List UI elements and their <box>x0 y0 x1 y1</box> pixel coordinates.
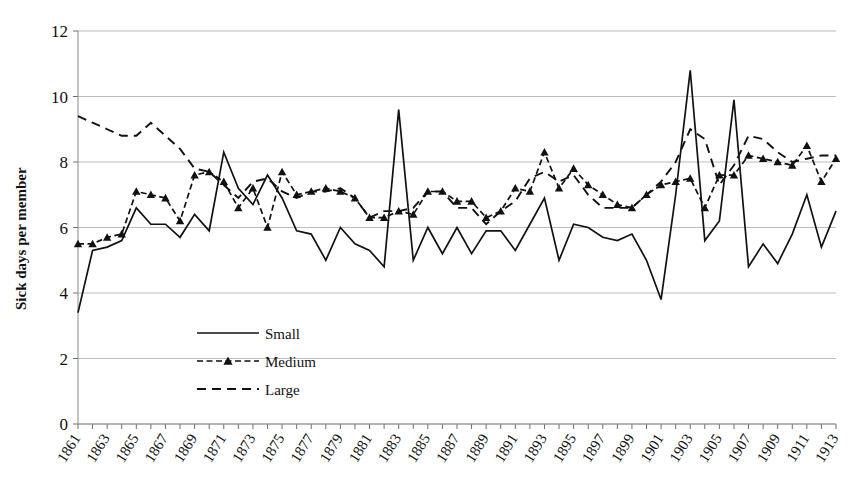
x-tick-label-1913: 1913 <box>812 431 841 465</box>
x-tick-label-1871: 1871 <box>200 431 229 465</box>
marker-triangle <box>190 171 198 179</box>
marker-triangle <box>147 191 155 199</box>
marker-triangle <box>817 177 825 185</box>
y-tick-label-8: 8 <box>60 153 69 172</box>
x-tick-group: 1861186318651867186918711873187518771879… <box>54 424 841 465</box>
marker-triangle <box>278 168 286 176</box>
x-tick-label-1895: 1895 <box>550 431 579 465</box>
y-tick-label-4: 4 <box>60 284 69 303</box>
x-tick-label-1893: 1893 <box>521 431 550 465</box>
legend-label-small: Small <box>265 326 300 342</box>
x-tick-label-1883: 1883 <box>375 431 404 465</box>
x-tick-label-1861: 1861 <box>54 431 83 465</box>
marker-triangle <box>569 164 577 172</box>
x-tick-label-1911: 1911 <box>783 431 812 464</box>
partial-caption <box>0 0 863 12</box>
y-axis-label: Sick days per member <box>13 167 29 310</box>
x-tick-label-1903: 1903 <box>666 431 695 465</box>
marker-triangle <box>599 191 607 199</box>
marker-triangle <box>803 141 811 149</box>
legend-label-medium: Medium <box>265 354 316 370</box>
x-tick-label-1909: 1909 <box>754 431 783 465</box>
chart-figure: 024681012 186118631865186718691871187318… <box>0 0 863 491</box>
x-tick-label-1869: 1869 <box>171 431 200 465</box>
x-tick-label-1889: 1889 <box>462 431 491 465</box>
y-tick-label-2: 2 <box>60 350 69 369</box>
marker-triangle <box>511 184 519 192</box>
x-tick-label-1887: 1887 <box>433 431 463 465</box>
x-tick-label-1891: 1891 <box>491 431 520 465</box>
marker-triangle <box>686 174 694 182</box>
y-tick-label-0: 0 <box>60 415 69 434</box>
x-tick-label-1873: 1873 <box>229 431 258 465</box>
x-tick-label-1901: 1901 <box>637 431 666 465</box>
marker-triangle <box>613 200 621 208</box>
y-tick-label-6: 6 <box>60 219 69 238</box>
line-chart-canvas: 024681012 186118631865186718691871187318… <box>0 0 863 491</box>
legend-label-large: Large <box>265 382 300 398</box>
marker-triangle <box>526 187 534 195</box>
marker-triangle <box>220 177 228 185</box>
x-tick-label-1863: 1863 <box>83 431 112 465</box>
data-series-group <box>74 70 840 312</box>
x-tick-label-1879: 1879 <box>316 431 345 465</box>
x-tick-label-1865: 1865 <box>112 431 141 465</box>
x-tick-label-1875: 1875 <box>258 431 287 465</box>
marker-triangle <box>540 148 548 156</box>
marker-triangle <box>555 184 563 192</box>
x-tick-label-1907: 1907 <box>725 431 755 465</box>
x-tick-label-1899: 1899 <box>608 431 637 465</box>
x-tick-label-1905: 1905 <box>695 431 724 465</box>
x-tick-label-1877: 1877 <box>287 431 317 465</box>
y-tick-label-10: 10 <box>51 88 68 107</box>
y-tick-label-12: 12 <box>51 22 68 41</box>
marker-triangle <box>584 181 592 189</box>
marker-triangle <box>744 151 752 159</box>
series-line-large <box>78 116 836 224</box>
marker-triangle <box>132 187 140 195</box>
x-tick-label-1881: 1881 <box>346 431 375 465</box>
x-tick-label-1897: 1897 <box>579 431 609 465</box>
y-tick-group: 024681012 <box>51 22 78 434</box>
series-line-small <box>78 70 836 312</box>
chart-legend: SmallMediumLarge <box>197 326 316 398</box>
x-tick-label-1885: 1885 <box>404 431 433 465</box>
x-tick-label-1867: 1867 <box>142 431 172 465</box>
